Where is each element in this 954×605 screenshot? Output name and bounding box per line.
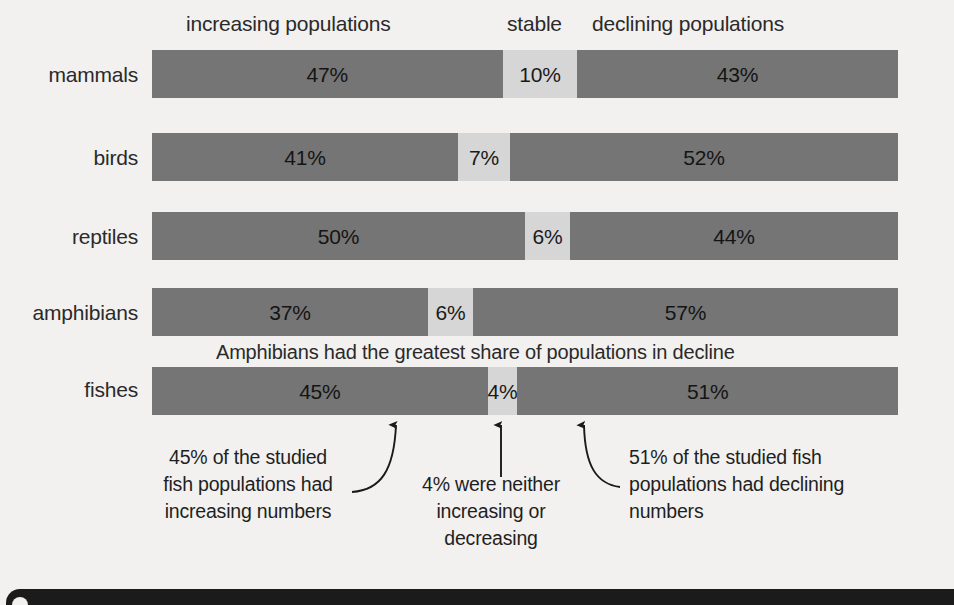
- table-row: 45% 4% 51%: [152, 367, 898, 415]
- segment-declining: 43%: [577, 50, 898, 98]
- inline-caption: Amphibians had the greatest share of pop…: [216, 341, 735, 364]
- row-label-mammals: mammals: [0, 63, 138, 87]
- segment-value: 51%: [687, 381, 728, 402]
- segment-value: 44%: [713, 226, 754, 247]
- callout-declining-line1: 51% of the studied fish: [629, 444, 929, 471]
- row-label-amphibians: amphibians: [0, 301, 138, 325]
- column-header-stable: stable: [507, 12, 562, 36]
- table-row: 47% 10% 43%: [152, 50, 898, 98]
- table-row: 37% 6% 57%: [152, 288, 898, 336]
- segment-value: 52%: [683, 147, 724, 168]
- segment-value: 50%: [318, 226, 359, 247]
- row-label-reptiles: reptiles: [0, 225, 138, 249]
- table-row: 50% 6% 44%: [152, 212, 898, 260]
- callout-increasing: 45% of the studied fish populations had …: [138, 444, 358, 525]
- segment-value: 57%: [665, 302, 706, 323]
- segment-value: 6%: [435, 302, 465, 323]
- callout-stable-line2: increasing or: [398, 498, 584, 525]
- column-header-declining: declining populations: [592, 12, 784, 36]
- segment-increasing: 47%: [152, 50, 503, 98]
- segment-value: 37%: [269, 302, 310, 323]
- segment-stable: 4%: [488, 367, 518, 415]
- segment-stable: 6%: [525, 212, 570, 260]
- row-label-birds: birds: [0, 146, 138, 170]
- callout-declining: 51% of the studied fish populations had …: [629, 444, 929, 525]
- callout-stable-line1: 4% were neither: [398, 471, 584, 498]
- segment-value: 47%: [307, 64, 348, 85]
- column-header-increasing: increasing populations: [186, 12, 391, 36]
- segment-value: 4%: [488, 381, 518, 402]
- segment-stable: 6%: [428, 288, 473, 336]
- segment-stable: 7%: [458, 133, 510, 181]
- segment-value: 7%: [469, 147, 499, 168]
- arrow-increasing-icon: [352, 425, 396, 492]
- segment-stable: 10%: [503, 50, 578, 98]
- footer-band: [0, 586, 954, 605]
- row-label-fishes: fishes: [0, 378, 138, 402]
- footer-band-shape: [6, 589, 954, 605]
- segment-declining: 51%: [517, 367, 898, 415]
- stacked-bar-chart: increasing populations stable declining …: [0, 0, 954, 605]
- table-row: 41% 7% 52%: [152, 133, 898, 181]
- segment-increasing: 41%: [152, 133, 458, 181]
- segment-increasing: 37%: [152, 288, 428, 336]
- segment-declining: 57%: [473, 288, 898, 336]
- callout-stable-line3: decreasing: [398, 525, 584, 552]
- arrow-declining-icon: [584, 425, 620, 487]
- segment-value: 6%: [532, 226, 562, 247]
- segment-increasing: 50%: [152, 212, 525, 260]
- segment-value: 43%: [717, 64, 758, 85]
- callout-declining-line2: populations had declining: [629, 471, 929, 498]
- callout-increasing-line2: fish populations had: [138, 471, 358, 498]
- segment-increasing: 45%: [152, 367, 488, 415]
- segment-value: 10%: [519, 64, 560, 85]
- callout-stable: 4% were neither increasing or decreasing: [398, 471, 584, 552]
- segment-declining: 52%: [510, 133, 898, 181]
- segment-declining: 44%: [570, 212, 898, 260]
- callout-increasing-line3: increasing numbers: [138, 498, 358, 525]
- callout-declining-line3: numbers: [629, 498, 929, 525]
- segment-value: 41%: [284, 147, 325, 168]
- callout-increasing-line1: 45% of the studied: [138, 444, 358, 471]
- segment-value: 45%: [299, 381, 340, 402]
